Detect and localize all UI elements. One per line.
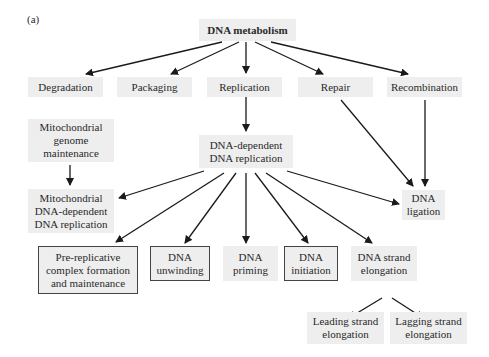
node-mito-dna-replication: Mitochondrial DNA-dependent DNA replicat… [28,189,114,233]
node-leading-strand: Leading strand elongation [307,312,384,344]
node-mito-genome-maintenance: Mitochondrial genome maintenance [28,119,114,162]
edges-layer [0,0,489,357]
edge-root-degradation [86,42,222,74]
node-dna-priming: DNA priming [223,246,278,281]
node-prereplicative-complex: Pre-replicative complex formation and ma… [38,246,138,294]
node-lagging-strand: Lagging strand elongation [390,312,467,344]
node-dna-dependent-replication: DNA-dependent DNA replication [199,135,293,168]
node-dna-unwinding: DNA unwinding [150,246,210,281]
edge-root-recombination [271,42,408,74]
node-packaging: Packaging [117,77,192,97]
node-repair: Repair [298,77,373,97]
node-dna-initiation: DNA initiation [284,246,338,281]
edge-root-packaging [171,42,239,74]
node-dna-metabolism: DNA metabolism [199,19,296,41]
node-replication: Replication [207,77,282,97]
node-recombination: Recombination [387,77,462,97]
edge-dnadep-ligation [287,171,399,204]
edge-repair-ligation [341,100,413,186]
node-dna-ligation: DNA ligation [402,190,445,220]
node-degradation: Degradation [28,77,103,97]
edge-dnadep-prerep [116,173,224,242]
edge-dnadep-unwinding [185,173,236,243]
node-dna-strand-elongation: DNA strand elongation [351,246,417,281]
